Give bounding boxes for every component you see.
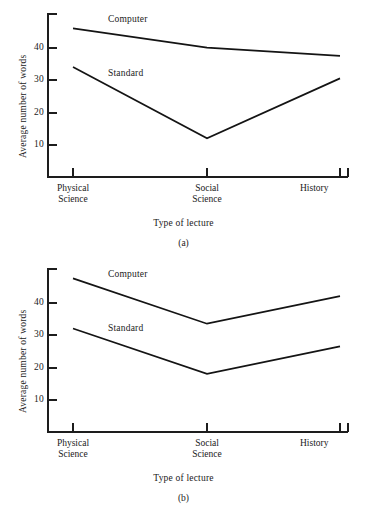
chart-a-canvas — [0, 0, 367, 255]
series-label-standard-a: Standard — [108, 68, 143, 78]
panel-caption-a: (a) — [0, 238, 367, 248]
chart-panel-b: Average number of words 40 30 20 10 Phys… — [0, 255, 367, 510]
series-label-computer-b: Computer — [108, 269, 148, 279]
xtick-label-physical-science-a: Physical Science — [28, 183, 118, 205]
ytick-label-20-b: 20 — [18, 362, 44, 372]
axis-frame-b — [48, 269, 348, 432]
ytick-label-40-b: 40 — [18, 297, 44, 307]
xtick-label-social-science-b: Social Science — [162, 438, 252, 460]
ytick-label-30-a: 30 — [18, 74, 44, 84]
series-label-computer-a: Computer — [108, 14, 148, 24]
x-axis-title-b: Type of lecture — [0, 473, 367, 483]
xtick-label-history-a: History — [300, 183, 362, 194]
ytick-label-40-a: 40 — [18, 42, 44, 52]
chart-panel-a: Average number of words 40 30 20 10 Phys… — [0, 0, 367, 255]
xtick-label-physical-science-b: Physical Science — [28, 438, 118, 460]
ytick-label-10-b: 10 — [18, 394, 44, 404]
ytick-label-10-a: 10 — [18, 139, 44, 149]
ytick-label-30-b: 30 — [18, 329, 44, 339]
x-axis-title-a: Type of lecture — [0, 218, 367, 228]
chart-b-canvas — [0, 255, 367, 510]
xtick-label-history-b: History — [300, 438, 362, 449]
panel-caption-b: (b) — [0, 493, 367, 503]
series-line-standard-b — [73, 329, 340, 374]
series-line-computer-a — [73, 28, 340, 56]
xtick-label-social-science-a: Social Science — [162, 183, 252, 205]
series-line-computer-b — [73, 278, 340, 323]
series-label-standard-b: Standard — [108, 323, 143, 333]
ytick-label-20-a: 20 — [18, 107, 44, 117]
